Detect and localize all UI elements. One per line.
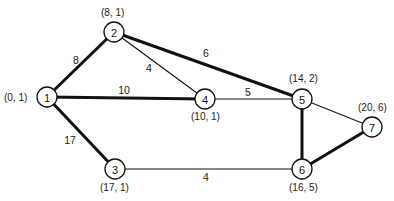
edge-1-3	[47, 97, 115, 169]
edge-weight-4-5: 5	[245, 86, 251, 98]
edge-weight-1-2: 8	[73, 54, 79, 66]
edge-1-4	[47, 97, 205, 99]
node-label-1: (0, 1)	[4, 92, 27, 103]
node-id: 4	[202, 94, 208, 106]
node-id: 7	[369, 122, 375, 134]
node-id: 2	[111, 27, 117, 39]
node-id: 6	[299, 164, 305, 176]
node-5: 5	[292, 89, 312, 109]
edge-weight-3-6: 4	[203, 171, 209, 183]
node-4: 4	[195, 89, 215, 109]
node-7: 7	[362, 117, 382, 137]
edge-weight-1-3: 17	[64, 134, 76, 146]
graph-diagram: 810174654 1234567 (0, 1)(8, 1)(17, 1)(10…	[0, 0, 394, 201]
edge-weight-2-5: 6	[203, 47, 209, 59]
node-2: 2	[104, 22, 124, 42]
node-label-4: (10, 1)	[191, 111, 220, 122]
node-3: 3	[105, 159, 125, 179]
node-label-2: (8, 1)	[101, 7, 124, 18]
edge-1-2	[47, 32, 114, 97]
edge-6-7	[302, 127, 372, 169]
node-6: 6	[292, 159, 312, 179]
edge-weight-1-4: 10	[118, 84, 130, 96]
node-label-6: (16, 5)	[289, 182, 318, 193]
node-label-7: (20, 6)	[358, 102, 387, 113]
node-label-5: (14, 2)	[289, 73, 318, 84]
nodes-layer: 1234567	[37, 22, 382, 179]
edge-weight-2-4: 4	[146, 62, 152, 74]
node-id: 3	[112, 164, 118, 176]
edge-weights-layer: 810174654	[64, 47, 251, 183]
node-1: 1	[37, 87, 57, 107]
node-id: 1	[44, 92, 50, 104]
node-id: 5	[299, 94, 305, 106]
node-label-3: (17, 1)	[100, 182, 129, 193]
